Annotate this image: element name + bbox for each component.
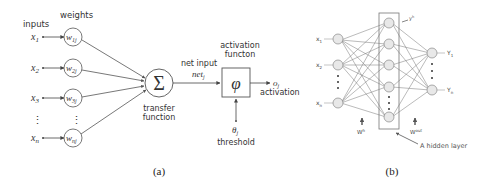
b-input-node-2 (333, 60, 343, 70)
panel-a-perceptron: inputs weights x1 w1j x2 w2j x3 w3j ⋮ ⋮ (23, 10, 300, 178)
b-output-y1: Y1 (446, 49, 454, 58)
input-xn: xn (30, 132, 39, 145)
weights-label: weights (60, 10, 94, 20)
b-input-node-1 (333, 34, 343, 44)
b-output-dots (431, 63, 433, 79)
hidden-node-n (384, 112, 394, 122)
w-hidden-label: Wh (357, 128, 365, 135)
hidden-layer-label: A hidden layer (420, 142, 468, 150)
sigma-symbol: Σ (153, 72, 165, 94)
panel-b-caption: (b) (386, 165, 399, 178)
threshold-theta: θj (232, 125, 238, 136)
w-out-label: Wout (410, 128, 422, 135)
b-input-x1: x1 (316, 35, 323, 44)
b-input-node-n (333, 98, 343, 108)
activation-function-label-2: functon (225, 50, 255, 59)
hidden-node-1 (384, 18, 394, 28)
input-row-3: x3 w3j (30, 89, 82, 107)
phi-symbol: φ (231, 74, 240, 93)
hidden-node-2 (384, 39, 394, 49)
input-x3: x3 (30, 92, 39, 105)
net-j: netj (192, 69, 205, 80)
b-input-xn: xn (316, 99, 323, 108)
input-x2: x2 (30, 62, 39, 75)
hidden-node-4 (384, 82, 394, 92)
hidden-dots (388, 96, 390, 110)
b-output-node-1 (427, 48, 437, 58)
panel-a-caption: (a) (153, 165, 166, 178)
net-input-label: net input (181, 59, 217, 68)
input-row-2: x2 w2j (30, 59, 82, 77)
weight-vdots: ⋮ (71, 114, 82, 126)
input-row-n: xn wnj (30, 129, 82, 147)
transfer-label-1: transfer (143, 104, 175, 113)
hidden-node-label: yh (409, 15, 414, 22)
inputs-label: inputs (23, 19, 50, 29)
b-output-node-n (427, 85, 437, 95)
b-output-yn: Yn (446, 86, 454, 95)
panel-b-mlp: x1 x2 xn yh Y1 Yn (316, 13, 468, 178)
hidden-output-connections (392, 23, 430, 117)
input-row-1: x1 w1j (30, 28, 82, 46)
activation-function-label-1: activation (220, 41, 260, 50)
hidden-node-3 (384, 60, 394, 70)
threshold-label: threshold (217, 138, 255, 147)
transfer-label-2: function (143, 113, 176, 122)
diagram-canvas: inputs weights x1 w1j x2 w2j x3 w3j ⋮ ⋮ (0, 0, 500, 189)
input-x1: x1 (30, 31, 39, 44)
input-vdots: ⋮ (32, 114, 43, 126)
activation-output-label: activation (260, 88, 300, 97)
b-input-dots (337, 75, 339, 89)
b-input-x2: x2 (316, 61, 323, 70)
